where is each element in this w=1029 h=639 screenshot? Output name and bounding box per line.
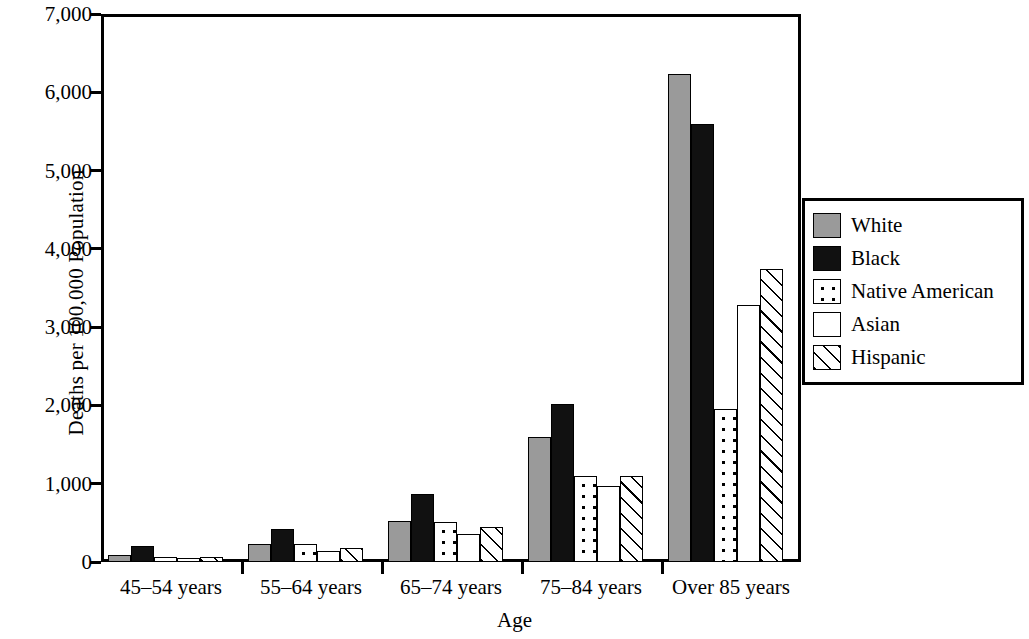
legend-label: Black [851,248,900,269]
bar [131,546,154,562]
x-axis-tick-label: 55–64 years [260,575,362,600]
bar [691,124,714,562]
legend-item: Hispanic [813,341,1015,374]
x-axis-title: Age [0,608,1029,633]
x-axis-tick-mark [661,562,664,574]
bar [200,557,223,562]
bar [737,305,760,562]
bar [271,529,294,562]
y-axis-tick-mark [90,404,101,407]
x-axis-tick-mark [381,562,384,574]
y-axis-tick-mark [90,482,101,485]
legend-item: Asian [813,308,1015,341]
legend-label: Native American [851,281,994,302]
bar [388,521,411,562]
legend-label: Hispanic [851,347,926,368]
y-axis-tick-label: 5,000 [6,160,92,181]
bar [154,557,177,562]
x-axis-tick-label: 75–84 years [540,575,642,600]
bar [597,486,620,562]
x-axis-tick-label: 45–54 years [120,575,222,600]
chart-legend: WhiteBlackNative AmericanAsianHispanic [802,198,1024,385]
y-axis-tick-labels: 01,0002,0003,0004,0005,0006,0007,000 [6,0,92,639]
bar [434,522,457,562]
legend-swatch-icon [813,213,841,238]
bar [574,476,597,562]
bar [620,476,643,562]
y-axis-tick-mark [90,561,101,564]
bar [714,409,737,562]
y-axis-tick-mark [90,326,101,329]
y-axis-tick-label: 1,000 [6,473,92,494]
legend-swatch-icon [813,312,841,337]
bar [551,404,574,562]
bar [457,534,480,562]
bar [760,269,783,562]
y-axis-tick-mark [90,91,101,94]
x-axis-tick-mark [241,562,244,574]
y-axis-tick-label: 6,000 [6,82,92,103]
legend-label: Asian [851,314,900,335]
legend-swatch-icon [813,246,841,271]
legend-item: Native American [813,275,1015,308]
bar [411,494,434,562]
bar [108,555,131,562]
bar [340,548,363,562]
bar [177,558,200,562]
x-axis-tick-label: Over 85 years [672,575,790,600]
y-axis-tick-label: 3,000 [6,317,92,338]
plot-area [101,14,801,562]
x-axis-tick-label: 65–74 years [400,575,502,600]
legend-item: Black [813,242,1015,275]
y-axis-tick-label: 0 [6,552,92,573]
bar [668,74,691,562]
x-axis-tick-mark [521,562,524,574]
legend-swatch-icon [813,279,841,304]
legend-swatch-icon [813,345,841,370]
bar [317,551,340,562]
y-axis-tick-label: 7,000 [6,4,92,25]
legend-item: White [813,209,1015,242]
y-axis-tick-label: 2,000 [6,395,92,416]
legend-label: White [851,215,902,236]
bar [294,544,317,562]
y-axis-tick-mark [90,169,101,172]
bar [480,527,503,562]
bar [248,544,271,562]
bar-chart: Deaths per 100,000 Population 01,0002,00… [0,0,1029,639]
y-axis-tick-mark [90,247,101,250]
bar [528,437,551,562]
y-axis-tick-label: 4,000 [6,238,92,259]
y-axis-tick-mark [90,13,101,16]
